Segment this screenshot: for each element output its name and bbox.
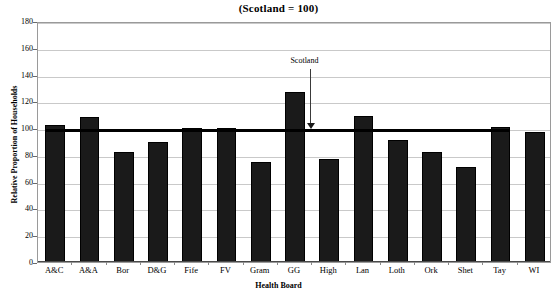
bar	[114, 152, 134, 262]
y-tick-label: 60	[3, 179, 33, 187]
y-tick-label: 160	[3, 45, 33, 53]
x-tick-label: D&G	[140, 265, 174, 275]
bar	[45, 125, 65, 262]
bar	[525, 132, 545, 262]
x-tick-label: A&A	[71, 265, 105, 275]
reference-line-arrow-stem	[310, 69, 311, 124]
bar	[285, 92, 305, 262]
y-tick-label: 0	[3, 259, 33, 267]
x-tick-label: GG	[277, 265, 311, 275]
bar	[182, 128, 202, 262]
x-axis-ticks: A&CA&ABorD&GFifeFVGramGGHighLanLothOrkSh…	[37, 265, 551, 281]
y-tick-label: 40	[3, 205, 33, 213]
chart-container: (Scotland = 100) Relative Proportion of …	[0, 0, 557, 302]
y-tick-label: 140	[3, 72, 33, 80]
x-tick-label: Gram	[243, 265, 277, 275]
y-tick-label: 100	[3, 125, 33, 133]
x-tick-label: Shet	[448, 265, 482, 275]
bar	[354, 116, 374, 262]
x-tick-label: A&C	[37, 265, 71, 275]
y-tick-label: 120	[3, 98, 33, 106]
chart-title: (Scotland = 100)	[0, 2, 557, 14]
y-tick-label: 20	[3, 232, 33, 240]
bar	[388, 140, 408, 262]
x-tick-label: Loth	[380, 265, 414, 275]
bar	[148, 142, 168, 263]
y-tick-label: 80	[3, 152, 33, 160]
x-tick-label: WI	[517, 265, 551, 275]
bar	[319, 159, 339, 262]
bar	[456, 167, 476, 262]
x-axis-title: Health Board	[0, 281, 557, 290]
y-tick-label: 180	[3, 18, 33, 26]
reference-line	[45, 129, 510, 132]
plot-area: Scotland	[37, 22, 551, 263]
reference-line-label: Scotland	[290, 56, 318, 65]
x-tick-label: Bor	[106, 265, 140, 275]
bar	[80, 117, 100, 262]
y-tick-mark	[33, 263, 37, 264]
reference-line-arrow-head	[307, 123, 315, 129]
x-tick-label: Fife	[174, 265, 208, 275]
x-tick-label: High	[311, 265, 345, 275]
bar	[217, 128, 237, 262]
x-tick-label: Tay	[482, 265, 516, 275]
x-tick-label: FV	[208, 265, 242, 275]
x-tick-label: Lan	[345, 265, 379, 275]
bar	[422, 152, 442, 262]
bar	[491, 127, 511, 262]
x-tick-label: Ork	[414, 265, 448, 275]
bar	[251, 162, 271, 262]
x-axis-line	[38, 261, 550, 262]
